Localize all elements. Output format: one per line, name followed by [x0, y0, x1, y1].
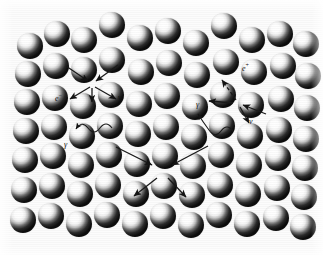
cascade-in-right	[172, 146, 208, 165]
incoming-upper-right	[96, 65, 118, 81]
particle-cascade-figure: γγe−νe+ν	[0, 0, 323, 255]
photon-lines	[76, 114, 233, 135]
cascade-out-right	[168, 178, 186, 197]
neutrino-track	[240, 107, 249, 123]
photon-right	[198, 114, 233, 135]
incoming-lower-right	[243, 105, 266, 114]
electron-track	[70, 87, 90, 99]
cascade-out-left	[134, 178, 157, 196]
photon-left	[76, 124, 112, 132]
incoming-upper-left	[66, 66, 88, 81]
cascade-in-left	[116, 147, 152, 165]
left-track	[209, 101, 233, 103]
neutrino-track	[95, 87, 116, 99]
positron-track	[222, 80, 236, 100]
interaction-vector-layer	[0, 0, 323, 255]
